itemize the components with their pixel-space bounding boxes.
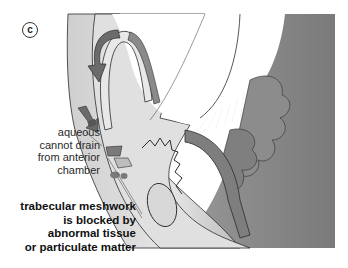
annotation-line: from anterior [8,151,100,164]
annotation-line: aqueous [8,126,100,139]
panel-label: c [22,22,38,38]
aqueous-annotation: aqueous cannot drain from anterior chamb… [8,126,100,176]
meshwork-annotation: trabecular meshwork is blocked by abnorm… [4,200,136,254]
annotation-line: cannot drain [8,139,100,152]
annotation-line: chamber [8,164,100,177]
meshwork-blockage [106,146,122,156]
annotation-line: trabecular meshwork [4,200,136,214]
annotation-line: is blocked by [4,214,136,228]
annotation-line: or particulate matter [4,241,136,255]
annotation-line: abnormal tissue [4,227,136,241]
